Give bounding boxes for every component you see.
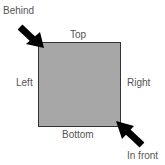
arrow-behind-icon [20, 27, 44, 48]
arrow-in-front-icon [116, 121, 142, 145]
label-right: Right [127, 77, 150, 88]
label-bottom: Bottom [62, 129, 94, 140]
label-top: Top [70, 29, 86, 40]
label-behind: Behind [3, 5, 34, 16]
label-in-front: In front [127, 150, 158, 161]
label-left: Left [16, 77, 33, 88]
